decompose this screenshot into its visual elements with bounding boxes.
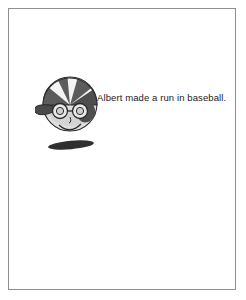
panel-top: Albert made a run in baseball.: [9, 9, 235, 149]
comic-page: Albert made a run in baseball. Great! Bu…: [0, 0, 246, 300]
panel-bottom: Great! But I thought run was moving one'…: [9, 151, 235, 291]
page-border-frame: Albert made a run in baseball. Great! Bu…: [8, 8, 236, 290]
baseball-bat-icon: [48, 139, 95, 151]
boy-character-illustration: [35, 61, 105, 153]
boy-speech-text: Albert made a run in baseball.: [97, 92, 242, 104]
